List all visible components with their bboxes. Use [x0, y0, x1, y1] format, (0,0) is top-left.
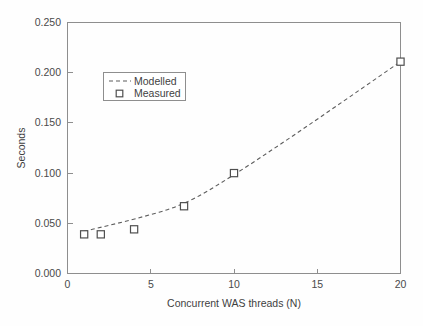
y-tick-label-0: 0.000: [35, 267, 61, 279]
data-point: [131, 226, 138, 233]
y-tick-label-2: 0.100: [35, 167, 61, 179]
legend-label-measured: Measured: [134, 87, 181, 99]
x-tick-label-0: 0: [65, 278, 71, 290]
chart-legend: Modelled Measured: [104, 73, 186, 101]
x-tick-label-3: 15: [311, 278, 323, 290]
chart-figure: 0.000 0.050 0.100 0.150 0.200 0.250 0 5 …: [0, 0, 423, 326]
x-tick-label-2: 10: [228, 278, 240, 290]
y-tick-label-1: 0.050: [35, 217, 61, 229]
plot-frame: [68, 23, 401, 274]
x-axis-title: Concurrent WAS threads (N): [167, 297, 301, 309]
x-tick-label-1: 5: [148, 278, 154, 290]
legend-swatch-measured: [116, 90, 123, 97]
y-tick-label-5: 0.250: [35, 16, 61, 28]
y-tick-label-4: 0.200: [35, 66, 61, 78]
chart-canvas: 0.000 0.050 0.100 0.150 0.200 0.250 0 5 …: [0, 0, 423, 326]
data-point: [97, 231, 104, 238]
x-tick-label-4: 20: [395, 278, 407, 290]
x-axis-ticks: [68, 269, 401, 274]
data-point: [230, 170, 237, 177]
legend-label-modelled: Modelled: [134, 75, 177, 87]
data-point: [81, 231, 88, 238]
y-axis-title: Seconds: [15, 128, 27, 169]
y-axis-ticks: [68, 23, 73, 274]
data-point: [180, 203, 187, 210]
data-point: [397, 58, 404, 65]
y-tick-label-3: 0.150: [35, 116, 61, 128]
